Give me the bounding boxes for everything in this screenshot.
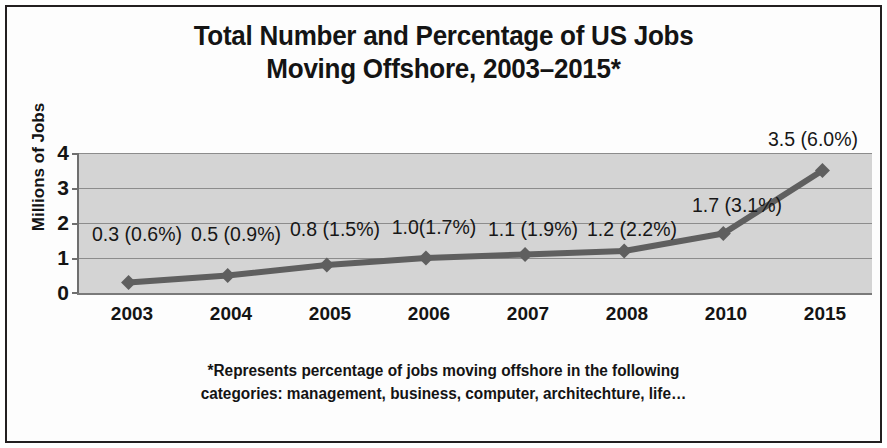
y-tick-mark-3 xyxy=(72,188,79,190)
data-label-2004: 0.5 (0.9%) xyxy=(191,223,281,246)
x-tick-label-2015: 2015 xyxy=(804,303,846,325)
y-tick-mark-2 xyxy=(72,223,79,225)
data-point-2003 xyxy=(121,275,136,290)
y-tick-mark-0 xyxy=(72,292,79,294)
data-point-2008 xyxy=(617,244,632,259)
y-tick-label-0: 0 xyxy=(43,281,69,305)
data-point-2007 xyxy=(518,247,533,262)
x-tick-label-2004: 2004 xyxy=(210,303,252,325)
x-tick-label-2007: 2007 xyxy=(507,303,549,325)
chart-footnote: *Represents percentage of jobs moving of… xyxy=(24,359,862,405)
y-tick-label-4: 4 xyxy=(43,141,69,165)
chart-figure: Total Number and Percentage of US Jobs M… xyxy=(0,0,887,448)
data-point-2004 xyxy=(220,268,235,283)
data-label-2010: 1.7 (3.1%) xyxy=(692,194,782,217)
x-tick-label-2005: 2005 xyxy=(309,303,351,325)
y-tick-label-3: 3 xyxy=(43,176,69,200)
x-axis-tick-labels: 2003 2004 2005 2006 2007 2008 2010 2015 xyxy=(77,303,870,333)
data-point-2005 xyxy=(319,258,334,273)
data-label-2005: 0.8 (1.5%) xyxy=(290,218,380,241)
y-tick-mark-4 xyxy=(72,153,79,155)
y-tick-label-2: 2 xyxy=(43,211,69,235)
y-tick-label-1: 1 xyxy=(43,246,69,270)
chart-title: Total Number and Percentage of US Jobs M… xyxy=(38,19,850,85)
data-label-2003: 0.3 (0.6%) xyxy=(92,223,182,246)
x-tick-label-2008: 2008 xyxy=(606,303,648,325)
y-tick-mark-1 xyxy=(72,258,79,260)
x-tick-label-2003: 2003 xyxy=(111,303,153,325)
data-label-2008: 1.2 (2.2%) xyxy=(587,218,677,241)
data-label-2007: 1.1 (1.9%) xyxy=(488,218,578,241)
data-label-2015: 3.5 (6.0%) xyxy=(768,128,858,151)
chart-frame: Total Number and Percentage of US Jobs M… xyxy=(5,5,882,443)
x-tick-label-2010: 2010 xyxy=(705,303,747,325)
data-label-2006: 1.0(1.7%) xyxy=(392,216,477,239)
x-tick-label-2006: 2006 xyxy=(408,303,450,325)
data-point-2006 xyxy=(418,251,433,266)
